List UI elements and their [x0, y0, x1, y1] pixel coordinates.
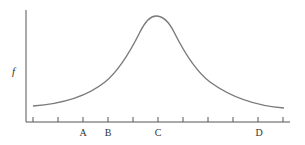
- y-axis-label: f: [12, 65, 17, 77]
- chart: f A B C D: [0, 0, 305, 145]
- x-ticks: [33, 117, 283, 122]
- x-label-a: A: [79, 127, 87, 138]
- x-label-c: C: [155, 127, 162, 138]
- peak-curve: [33, 16, 284, 108]
- x-label-d: D: [255, 127, 262, 138]
- x-label-b: B: [105, 127, 112, 138]
